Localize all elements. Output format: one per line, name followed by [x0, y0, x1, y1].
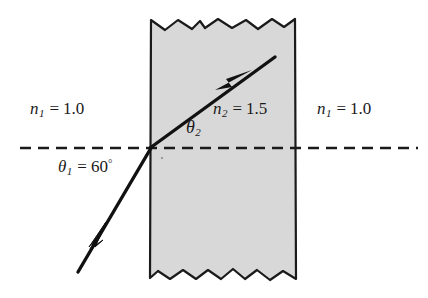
label-n2-equals: =	[233, 99, 243, 118]
label-n2-subscript: 2	[222, 107, 228, 119]
label-n1-left-value: 1.0	[63, 99, 84, 118]
label-theta1-degree-sign: °	[108, 157, 112, 169]
label-theta2-symbol: θ	[186, 117, 195, 137]
label-n1-right-symbol: n	[317, 99, 326, 118]
refraction-diagram: n1=1.0 n2=1.5 n1=1.0 θ2 θ1=60°	[0, 0, 428, 298]
scan-speck	[161, 157, 163, 159]
label-n1-right-equals: =	[337, 99, 347, 118]
label-theta1-value: 60	[91, 157, 108, 176]
label-n2-symbol: n	[213, 99, 222, 118]
label-n1-left: n1=1.0	[30, 100, 84, 119]
label-theta1: θ1=60°	[58, 158, 112, 177]
label-n1-left-equals: =	[50, 99, 60, 118]
label-theta2: θ2	[186, 118, 201, 138]
label-n1-left-symbol: n	[30, 99, 39, 118]
label-theta1-equals: =	[77, 157, 87, 176]
label-n2: n2=1.5	[213, 100, 267, 119]
incident-ray-arrowhead	[89, 221, 107, 249]
label-n2-value: 1.5	[246, 99, 267, 118]
label-n1-right-value: 1.0	[350, 99, 371, 118]
label-n1-right: n1=1.0	[317, 100, 371, 119]
label-theta1-symbol: θ	[58, 157, 66, 176]
diagram-canvas	[0, 0, 428, 298]
label-n1-left-subscript: 1	[39, 107, 45, 119]
label-theta1-subscript: 1	[67, 165, 73, 177]
label-n1-right-subscript: 1	[326, 107, 332, 119]
label-theta2-subscript: 2	[195, 126, 201, 138]
